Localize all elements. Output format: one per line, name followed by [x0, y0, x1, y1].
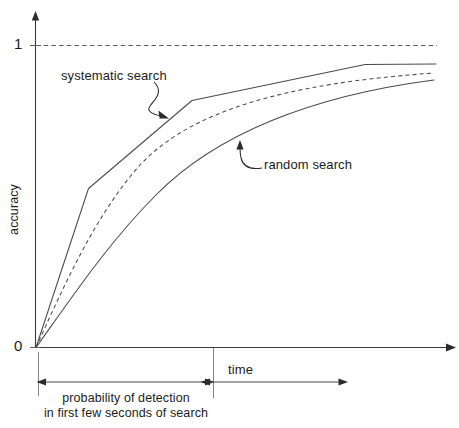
detection-span-left-arrowhead: [37, 378, 47, 385]
y-axis-tick-label-zero: 0: [14, 339, 22, 352]
chart-figure: 1 0 accuracy time systematic search rand…: [0, 0, 459, 428]
y-axis-arrowhead: [32, 11, 39, 21]
systematic-search-leader-line: [149, 82, 161, 116]
curve-random-search: [36, 80, 434, 348]
curve-systematic-search: [36, 64, 436, 348]
y-axis-title: accuracy: [8, 180, 21, 240]
x-axis-arrowhead: [446, 344, 456, 352]
time-span-right-arrowhead: [339, 378, 349, 385]
curve-average-dashed: [36, 73, 434, 348]
systematic-search-label: systematic search: [61, 69, 167, 82]
detection-span-caption-line-2: in first few seconds of search: [30, 406, 222, 421]
systematic-search-arrowhead: [158, 111, 169, 119]
y-axis-tick-label-one: 1: [14, 37, 22, 50]
x-axis-title: time: [228, 363, 253, 376]
random-search-arrowhead: [236, 140, 243, 150]
detection-span-caption: probability of detection in first few se…: [30, 391, 222, 420]
random-search-leader-line: [240, 147, 262, 169]
random-search-label: random search: [264, 158, 352, 171]
detection-span-caption-line-1: probability of detection: [30, 391, 222, 406]
